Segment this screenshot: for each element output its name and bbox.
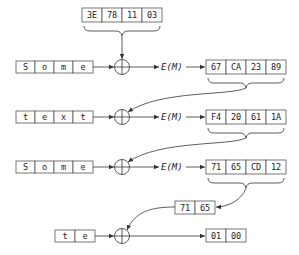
ciphertext-cell: F4 — [211, 112, 221, 122]
row-1: S o m e E(M) 67 CA 23 89 — [16, 60, 286, 113]
ciphertext-cell: 71 — [211, 162, 221, 172]
iv-cell: 03 — [147, 10, 157, 20]
chain-arrow — [128, 88, 246, 112]
plaintext-cell: t — [80, 112, 85, 122]
plaintext-cell: e — [80, 162, 85, 172]
iv-block: 3E 78 11 03 — [82, 8, 162, 22]
ciphertext-cell: 67 — [211, 62, 221, 72]
ciphertext-cell: 01 — [211, 231, 221, 241]
ciphertext-cell: 65 — [231, 162, 241, 172]
ciphertext-cell: 00 — [231, 231, 241, 241]
plaintext-cell: e — [82, 231, 87, 241]
ciphertext-cell: 12 — [271, 162, 281, 172]
plaintext-cell: o — [42, 62, 47, 72]
encrypt-label: E(M) — [161, 162, 183, 172]
plaintext-cell: m — [61, 62, 66, 72]
ciphertext-cell: 1A — [271, 112, 281, 122]
iv-cell: 3E — [87, 10, 97, 20]
ciphertext-cell: 20 — [231, 112, 241, 122]
partial-key-cell: 65 — [200, 203, 210, 213]
plaintext-cell: e — [80, 62, 85, 72]
row-2: t e x t E(M) F4 20 61 1A — [16, 110, 286, 163]
chain-arrow — [128, 138, 246, 162]
iv-cell: 78 — [107, 10, 117, 20]
chain-arrow — [216, 188, 246, 207]
cbc-diagram: 3E 78 11 03 S o m e E(M) 67 CA 23 89 — [0, 0, 299, 255]
ciphertext-cell: CD — [251, 162, 261, 172]
partial-key-block: 71 65 — [127, 201, 215, 230]
ciphertext-cell: 23 — [251, 62, 261, 72]
ciphertext-cell: CA — [231, 62, 241, 72]
ciphertext-cell: 89 — [271, 62, 281, 72]
encrypt-label: E(M) — [161, 62, 183, 72]
iv-cell: 11 — [127, 10, 137, 20]
plaintext-cell: x — [61, 112, 66, 122]
plaintext-cell: S — [23, 62, 28, 72]
ciphertext-cell: 61 — [251, 112, 261, 122]
row-3: S o m e E(M) 71 65 CD 12 — [16, 160, 286, 208]
iv-brace — [84, 26, 160, 36]
plaintext-cell: o — [42, 162, 47, 172]
encrypt-label: E(M) — [161, 112, 183, 122]
plaintext-cell: t — [23, 112, 28, 122]
partial-key-cell: 71 — [180, 203, 190, 213]
plaintext-cell: S — [23, 162, 28, 172]
plaintext-cell: t — [62, 231, 67, 241]
plaintext-cell: m — [61, 162, 66, 172]
final-row: t e 01 00 — [55, 229, 246, 244]
plaintext-cell: e — [42, 112, 47, 122]
